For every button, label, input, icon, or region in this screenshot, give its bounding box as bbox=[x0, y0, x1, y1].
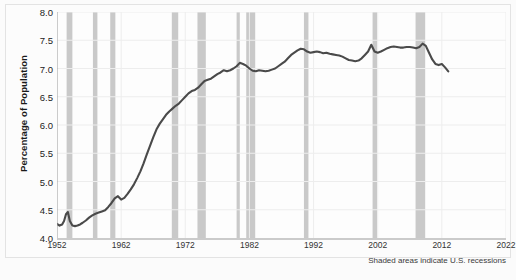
x-axis-line bbox=[57, 238, 507, 240]
x-tick-label: 1962 bbox=[112, 240, 131, 250]
y-axis-ticks: 4.04.55.05.56.06.57.07.58.0 bbox=[0, 0, 53, 280]
x-tick-label: 2002 bbox=[368, 240, 387, 250]
x-tick-label: 1972 bbox=[176, 240, 195, 250]
chart-canvas bbox=[57, 12, 506, 238]
x-axis-ticks: 19521962197219821992200220122022 bbox=[0, 240, 516, 256]
x-tick-label: 1952 bbox=[48, 240, 67, 250]
y-tick-label: 7.0 bbox=[40, 63, 53, 74]
chart-caption: Shaded areas indicate U.S. recessions bbox=[368, 256, 506, 265]
y-tick-label: 5.0 bbox=[40, 176, 53, 187]
x-tick-label: 2012 bbox=[432, 240, 451, 250]
x-tick-label: 1992 bbox=[304, 240, 323, 250]
y-tick-label: 4.5 bbox=[40, 204, 53, 215]
chart-figure: Percentage of Population 4.04.55.05.56.0… bbox=[0, 0, 516, 280]
plot-area bbox=[57, 12, 506, 238]
y-tick-label: 8.0 bbox=[40, 7, 53, 18]
y-tick-label: 6.5 bbox=[40, 91, 53, 102]
x-tick-label: 1982 bbox=[240, 240, 259, 250]
y-tick-label: 7.5 bbox=[40, 35, 53, 46]
y-tick-label: 5.5 bbox=[40, 148, 53, 159]
x-tick-label: 2022 bbox=[497, 240, 516, 250]
y-tick-label: 6.0 bbox=[40, 120, 53, 131]
